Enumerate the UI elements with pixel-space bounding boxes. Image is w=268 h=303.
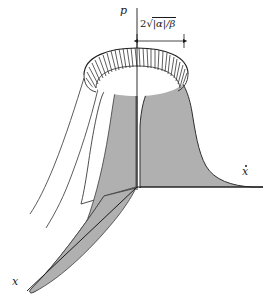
left-peak-cut-section — [30, 80, 136, 293]
xdot-axis-label: x — [242, 166, 248, 177]
figure-container: p x x 2√|α|/β Probability density surfac… — [0, 0, 268, 303]
crater-diameter-label: 2√|α|/β — [140, 19, 176, 29]
dimension-radicand: |α|/β — [152, 17, 177, 29]
x-axis-label: x — [12, 276, 18, 287]
xdot-accent-dot — [245, 165, 247, 167]
surface-plot-svg — [0, 0, 268, 303]
dimension-line — [137, 34, 184, 48]
p-axis-label: p — [120, 5, 127, 16]
crater-rim-ring — [84, 47, 188, 96]
